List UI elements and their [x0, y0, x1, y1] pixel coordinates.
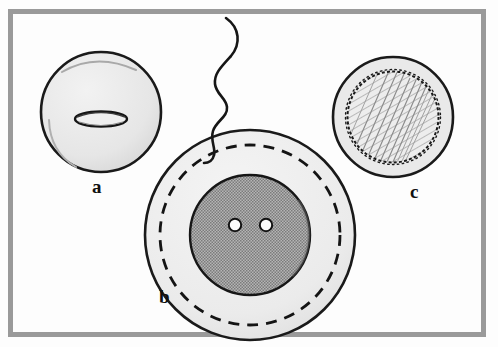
figure-label-c: c [410, 182, 418, 201]
illustration-page: a b c [0, 0, 498, 347]
figure-label-b: b [159, 287, 170, 306]
figure-label-a: a [92, 177, 102, 196]
illustration-frame [8, 9, 486, 337]
